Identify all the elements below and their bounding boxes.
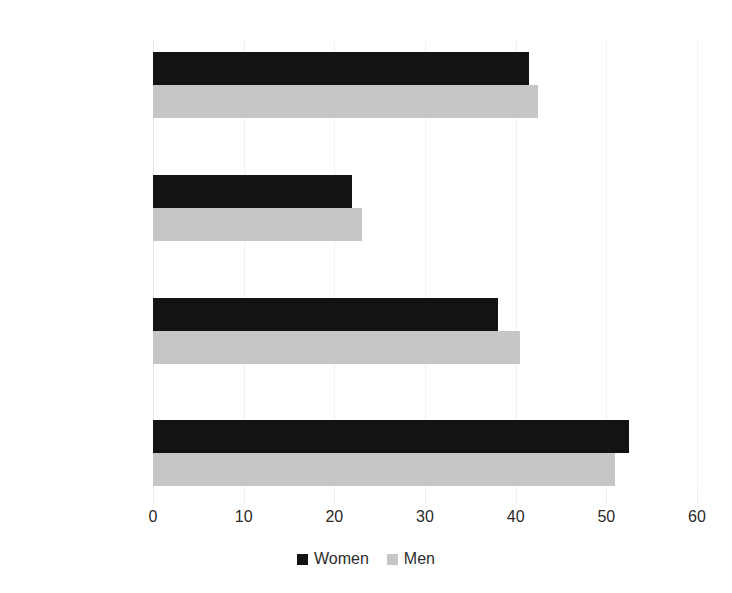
- bar-women-religion: [153, 52, 529, 85]
- legend-label-women: Women: [314, 550, 369, 568]
- x-tick-mark-20: [334, 490, 335, 504]
- legend-item-women: Women: [297, 550, 369, 568]
- x-tick-label-50: 50: [597, 508, 615, 526]
- bar-women-social-services: [153, 298, 498, 331]
- x-tick-label-30: 30: [416, 508, 434, 526]
- bar-men-religion: [153, 85, 538, 118]
- x-tick-mark-0: [153, 490, 154, 504]
- x-tick-label-60: 60: [688, 508, 706, 526]
- chart-legend: WomenMen: [0, 550, 732, 568]
- x-tick-mark-40: [516, 490, 517, 504]
- bar-men-other-nonprofits: [153, 453, 615, 486]
- bar-chart: ReligionHealth RelatedSocial ServicesOth…: [0, 0, 732, 593]
- plot-area: ReligionHealth RelatedSocial ServicesOth…: [153, 40, 697, 490]
- x-tick-mark-10: [244, 490, 245, 504]
- bar-women-other-nonprofits: [153, 420, 629, 453]
- bar-men-social-services: [153, 331, 520, 364]
- legend-swatch-women-icon: [297, 554, 308, 565]
- x-tick-mark-30: [425, 490, 426, 504]
- legend-item-men: Men: [387, 550, 435, 568]
- gridline-60: [697, 40, 698, 490]
- bar-men-health-related: [153, 208, 362, 241]
- x-tick-label-10: 10: [235, 508, 253, 526]
- x-tick-label-0: 0: [149, 508, 158, 526]
- x-tick-mark-60: [697, 490, 698, 504]
- legend-swatch-men-icon: [387, 554, 398, 565]
- legend-label-men: Men: [404, 550, 435, 568]
- bar-women-health-related: [153, 175, 352, 208]
- x-tick-mark-50: [606, 490, 607, 504]
- x-tick-label-40: 40: [507, 508, 525, 526]
- x-axis: 0102030405060: [0, 490, 732, 530]
- x-tick-label-20: 20: [325, 508, 343, 526]
